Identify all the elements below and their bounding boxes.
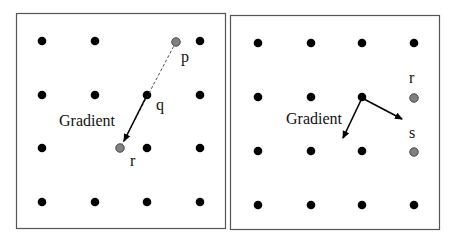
grid-point [91,37,100,46]
point-s [410,148,419,157]
grid-point [38,91,47,100]
label-s: s [409,124,415,141]
grid-point [38,37,47,46]
grid-point [307,147,316,156]
grid-point [254,39,263,48]
grid-point [254,93,263,102]
grid-point [307,39,316,48]
label-q: q [156,96,164,114]
grid-point [358,201,367,210]
grid-point [91,198,100,207]
diagram-canvas: prqGradientrsGradient [0,0,454,239]
grid-point [410,39,419,48]
grid-point [196,144,205,153]
grid-point [254,201,263,210]
panel-left: prqGradient [17,14,226,229]
label-r: r [130,152,136,169]
gradient-label: Gradient [286,110,343,127]
label-r: r [409,69,415,86]
point-p [172,38,181,47]
panel-frame [17,14,226,229]
grid-point [307,201,316,210]
grid-point [254,147,263,156]
gradient-label: Gradient [59,112,116,129]
grid-point [143,144,152,153]
grid-point [143,198,152,207]
grid-point [91,91,100,100]
grid-point [38,198,47,207]
label-p: p [181,48,189,66]
grid-point [358,39,367,48]
point-r [410,94,419,103]
grid-point [410,201,419,210]
grid-point [196,91,205,100]
panel-right: rsGradient [231,16,440,230]
grid-point [307,93,316,102]
grid-point [358,147,367,156]
grid-point [38,144,47,153]
grid-point [196,37,205,46]
point-r [116,144,125,153]
grid-point [196,198,205,207]
